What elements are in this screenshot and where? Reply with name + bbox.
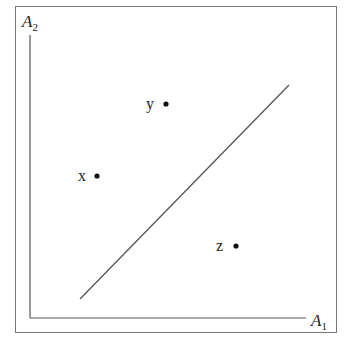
point-label: x (78, 167, 86, 184)
point-label: y (146, 95, 154, 113)
separator-line (80, 85, 289, 299)
point-x: x (78, 167, 100, 184)
diagram-canvas: A2 A1 x y z (0, 0, 346, 345)
x-axis-label: A1 (310, 311, 327, 332)
point-z: z (216, 237, 239, 254)
point-dot (163, 101, 168, 106)
point-y: y (146, 95, 169, 113)
y-axis-label: A2 (21, 12, 38, 33)
outer-frame (16, 7, 337, 333)
point-label: z (216, 237, 223, 254)
point-dot (233, 243, 238, 248)
point-dot (94, 173, 99, 178)
